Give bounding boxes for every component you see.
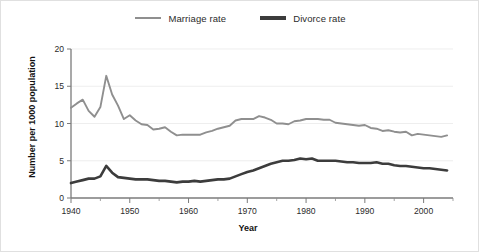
x-axis-title: Year bbox=[238, 223, 258, 233]
y-axis-title: Number per 1000 population bbox=[27, 56, 37, 178]
x-tick-label: 1960 bbox=[179, 206, 198, 216]
y-tick-label: 5 bbox=[59, 156, 64, 166]
x-tick-label: 1990 bbox=[355, 206, 374, 216]
tick-marks bbox=[67, 49, 453, 203]
y-tick-label: 15 bbox=[54, 81, 64, 91]
legend-item-marriage-rate: Marriage rate bbox=[135, 13, 226, 24]
x-tick-label: 2000 bbox=[414, 206, 433, 216]
gridlines bbox=[71, 49, 453, 161]
line-swatch-icon bbox=[135, 17, 161, 19]
legend-label-marriage-rate: Marriage rate bbox=[168, 13, 226, 24]
y-tick-label: 10 bbox=[54, 119, 64, 129]
legend-item-divorce-rate: Divorce rate bbox=[260, 13, 345, 24]
legend-label-divorce-rate: Divorce rate bbox=[293, 13, 345, 24]
series-line-marriage-rate bbox=[71, 76, 447, 137]
line-swatch-icon bbox=[260, 16, 286, 19]
line-chart-svg: 05101520 1940195019601970198019902000 Ye… bbox=[1, 25, 479, 252]
x-tick-label: 1980 bbox=[297, 206, 316, 216]
y-tick-label: 0 bbox=[59, 193, 64, 203]
plot-area: 05101520 1940195019601970198019902000 Ye… bbox=[1, 25, 479, 252]
x-tick-label: 1970 bbox=[238, 206, 257, 216]
x-tick-label: 1950 bbox=[120, 206, 139, 216]
x-tick-labels: 1940195019601970198019902000 bbox=[61, 206, 433, 216]
chart-figure: Marriage rate Divorce rate 05101520 1940… bbox=[0, 0, 479, 252]
series-line-divorce-rate bbox=[71, 159, 447, 184]
data-series-layer bbox=[71, 76, 447, 183]
y-tick-label: 20 bbox=[54, 44, 64, 54]
y-tick-labels: 05101520 bbox=[54, 44, 64, 203]
x-tick-label: 1940 bbox=[61, 206, 80, 216]
